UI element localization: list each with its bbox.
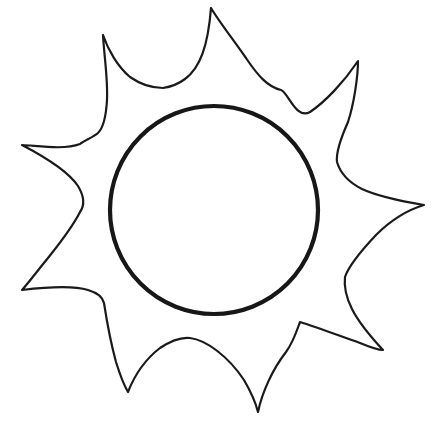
sun-illustration-canvas: [0, 0, 438, 427]
sun-drawing-svg: [0, 0, 438, 427]
background-rect: [0, 0, 438, 427]
